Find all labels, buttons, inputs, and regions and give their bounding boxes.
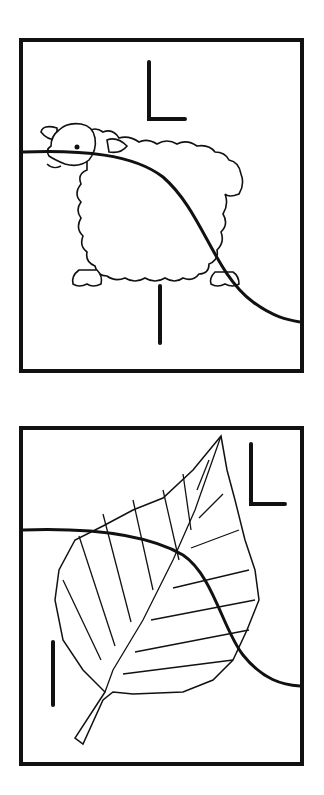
uppercase-l-letter — [149, 62, 185, 119]
leaf-icon — [55, 436, 259, 744]
sheep-illustration — [23, 42, 300, 369]
sheep-card: sheep — [19, 38, 304, 373]
sheep-icon — [41, 124, 243, 286]
uppercase-l-letter — [251, 444, 285, 504]
leaf-illustration — [23, 430, 300, 762]
leaf-card: leaf — [19, 426, 304, 766]
